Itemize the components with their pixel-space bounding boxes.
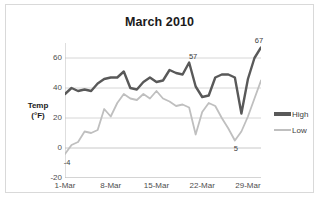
legend-item-low[interactable]: Low	[274, 122, 324, 138]
plot-area: 5767-45	[65, 43, 261, 178]
series-line-high	[65, 48, 261, 114]
legend-label-high: High	[292, 110, 308, 119]
data-label: 57	[189, 52, 197, 61]
x-axis-tick-label: 1-Mar	[55, 181, 76, 190]
axis-lines	[65, 43, 261, 178]
x-axis-tick-label: 22-Mar	[190, 181, 215, 190]
x-axis-tick-label: 8-Mar	[100, 181, 121, 190]
data-label: 5	[234, 144, 238, 153]
y-axis-tick-label: 40	[36, 84, 62, 92]
chart-container: March 2010 -200204060 Temp (°F) 5767-45 …	[5, 4, 314, 193]
chart-title: March 2010	[6, 15, 313, 29]
chart-legend: High Low	[274, 106, 324, 138]
series-line-low	[65, 81, 261, 155]
y-axis-title: Temp (°F)	[16, 101, 60, 121]
y-axis-title-line2: (°F)	[16, 111, 60, 121]
data-label: -4	[64, 158, 71, 167]
y-axis-tick-label: 0	[36, 144, 62, 152]
legend-item-high[interactable]: High	[274, 106, 324, 122]
y-axis-tick-label: 60	[36, 54, 62, 62]
y-axis-title-line1: Temp	[16, 101, 60, 111]
legend-swatch-low-icon	[274, 129, 291, 132]
x-axis-tick-label: 29-Mar	[235, 181, 260, 190]
data-label: 67	[255, 36, 263, 45]
legend-label-low: Low	[292, 126, 307, 135]
series-lines	[65, 48, 261, 155]
x-axis: 1-Mar8-Mar15-Mar22-Mar29-Mar	[65, 181, 261, 195]
x-axis-tick-label: 15-Mar	[144, 181, 169, 190]
plot-svg	[65, 43, 261, 178]
legend-swatch-high-icon	[274, 112, 291, 116]
